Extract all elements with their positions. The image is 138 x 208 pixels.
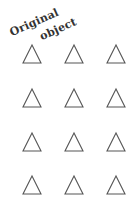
triangle-icon: [107, 133, 125, 151]
triangle-icon: [23, 133, 41, 151]
triangle-icon: [23, 176, 41, 194]
triangle-icon: [107, 89, 125, 107]
triangle-icon: [65, 133, 83, 151]
triangle-icon: [65, 176, 83, 194]
triangle-icon: [107, 176, 125, 194]
triangle-grid: [0, 0, 138, 208]
triangle-icon: [65, 89, 83, 107]
triangle-icon: [23, 45, 41, 63]
triangle-icon: [65, 45, 83, 63]
triangle-icon: [23, 89, 41, 107]
triangle-icon: [107, 45, 125, 63]
